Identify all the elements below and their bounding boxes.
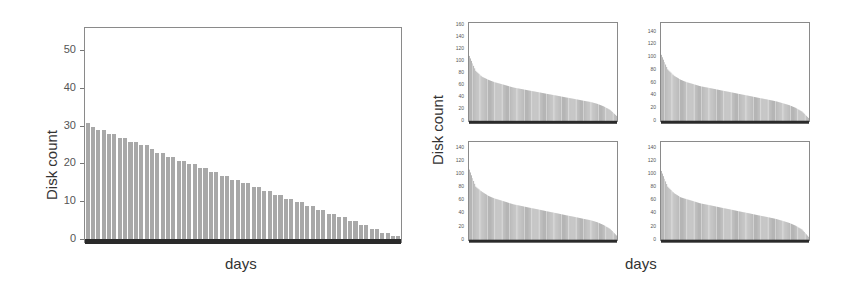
bar — [284, 199, 288, 241]
bar — [364, 225, 368, 240]
bar — [273, 195, 277, 240]
left-x-axis-label: days — [225, 255, 257, 272]
subplot-top-right — [660, 22, 810, 122]
bar — [332, 214, 336, 241]
y-tick-label: 20 — [638, 223, 656, 229]
bar — [262, 191, 266, 240]
bar — [91, 127, 95, 241]
bar — [246, 183, 250, 240]
bar — [252, 187, 256, 240]
bar — [177, 161, 181, 241]
y-tick-label: 40 — [638, 209, 656, 215]
bar — [171, 157, 175, 240]
y-tick-label: 30 — [44, 119, 76, 131]
y-tick-label: 140 — [446, 33, 464, 39]
left-bars — [85, 28, 401, 242]
right-x-axis-label: days — [625, 255, 657, 272]
y-tick-label: 120 — [446, 45, 464, 51]
y-tick-label: 20 — [446, 223, 464, 229]
bar — [150, 149, 154, 240]
y-tick-label: 120 — [638, 157, 656, 163]
y-tick-label: 120 — [638, 40, 656, 46]
bar — [348, 221, 352, 240]
y-tick-label: 60 — [638, 79, 656, 85]
bar — [182, 161, 186, 241]
bar — [198, 168, 202, 240]
y-tick-label: 140 — [638, 28, 656, 34]
bar — [134, 142, 138, 241]
subplot-bottom-left — [468, 141, 618, 241]
bar — [225, 176, 229, 240]
bar — [203, 168, 207, 240]
y-tick-label: 60 — [446, 196, 464, 202]
zero-baseline — [85, 239, 401, 244]
subplot-bottom-right — [660, 141, 810, 241]
bar — [257, 187, 261, 240]
bar — [214, 172, 218, 240]
bar — [166, 157, 170, 240]
bar — [295, 202, 299, 240]
bar — [316, 210, 320, 240]
bar — [86, 123, 90, 240]
y-tick-label: 80 — [446, 183, 464, 189]
bar — [321, 210, 325, 240]
bar — [155, 153, 159, 240]
bar — [107, 134, 111, 240]
bar — [230, 180, 234, 241]
y-tick-label: 0 — [446, 117, 464, 123]
bar — [343, 217, 347, 240]
bar — [193, 164, 197, 240]
bar — [305, 206, 309, 240]
y-tick-label: 20 — [638, 104, 656, 110]
y-tick-label: 100 — [446, 57, 464, 63]
bar — [268, 191, 272, 240]
bar — [353, 221, 357, 240]
bar — [161, 153, 165, 240]
bar — [359, 225, 363, 240]
y-tick-label: 0 — [446, 236, 464, 242]
y-tick-label: 80 — [638, 183, 656, 189]
bar — [289, 199, 293, 241]
y-tick-label: 40 — [638, 91, 656, 97]
y-tick-label: 60 — [446, 81, 464, 87]
bar — [145, 145, 149, 240]
bar — [96, 130, 100, 240]
bar — [300, 202, 304, 240]
y-tick-label: 0 — [638, 236, 656, 242]
y-tick-label: 20 — [44, 156, 76, 168]
bar — [112, 134, 116, 240]
y-tick-label: 80 — [638, 66, 656, 72]
subplot-bars — [469, 142, 617, 240]
y-tick-label: 140 — [638, 144, 656, 150]
y-tick-label: 10 — [44, 194, 76, 206]
left-chart: Disk count 01020304050 days — [0, 0, 420, 289]
bar — [209, 172, 213, 240]
bar — [337, 217, 341, 240]
subplot-bars — [661, 23, 809, 121]
y-tick-label: 80 — [446, 69, 464, 75]
y-tick-label: 0 — [44, 232, 76, 244]
subplot-top-left — [468, 22, 618, 122]
bar — [241, 183, 245, 240]
bar — [123, 138, 127, 240]
y-tick-label: 40 — [446, 93, 464, 99]
y-tick-label: 40 — [44, 81, 76, 93]
bar — [278, 195, 282, 240]
bar — [118, 138, 122, 240]
y-tick-label: 60 — [638, 196, 656, 202]
y-tick-label: 40 — [446, 209, 464, 215]
y-tick-label: 120 — [446, 157, 464, 163]
left-plot-area — [84, 27, 402, 243]
y-tick-label: 20 — [446, 105, 464, 111]
y-tick-label: 50 — [44, 43, 76, 55]
bar — [327, 214, 331, 241]
y-tick-label: 100 — [638, 53, 656, 59]
y-tick-label: 0 — [638, 117, 656, 123]
bar — [102, 130, 106, 240]
bar — [311, 206, 315, 240]
bar — [128, 142, 132, 241]
y-tick-label: 140 — [446, 144, 464, 150]
subplot-bars — [469, 23, 617, 121]
subplot-bars — [661, 142, 809, 240]
y-tick-label: 100 — [638, 170, 656, 176]
